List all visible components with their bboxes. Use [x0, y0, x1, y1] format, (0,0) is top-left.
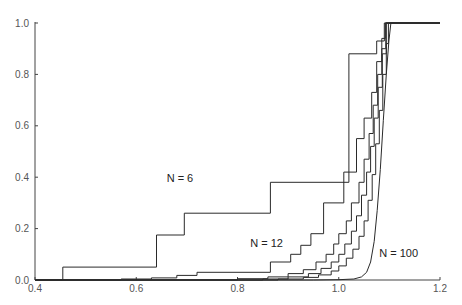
y-tick-label: 0.8 — [15, 69, 29, 80]
y-tick-label: 0.2 — [15, 223, 29, 234]
curve-label: N = 100 — [379, 247, 418, 259]
curves — [35, 23, 440, 280]
x-tick-label: 0.4 — [28, 283, 42, 294]
x-tick-label: 1.0 — [332, 283, 346, 294]
y-tick-label: 0.6 — [15, 120, 29, 131]
curve-label: N = 6 — [167, 172, 194, 184]
x-tick-label: 1.2 — [433, 283, 447, 294]
cdf-curve-1 — [35, 23, 440, 280]
curve-label: N = 12 — [250, 237, 283, 249]
x-tick-label: 0.8 — [231, 283, 245, 294]
curve-labels: N = 6N = 12N = 100 — [167, 172, 418, 259]
x-tick-label: 0.6 — [129, 283, 143, 294]
y-tick-label: 1.0 — [15, 18, 29, 29]
cdf-step-chart: 0.00.20.40.60.81.0 0.40.60.81.01.2 N = 6… — [0, 0, 462, 305]
y-tick-label: 0.4 — [15, 172, 29, 183]
y-axis: 0.00.20.40.60.81.0 — [15, 18, 38, 286]
